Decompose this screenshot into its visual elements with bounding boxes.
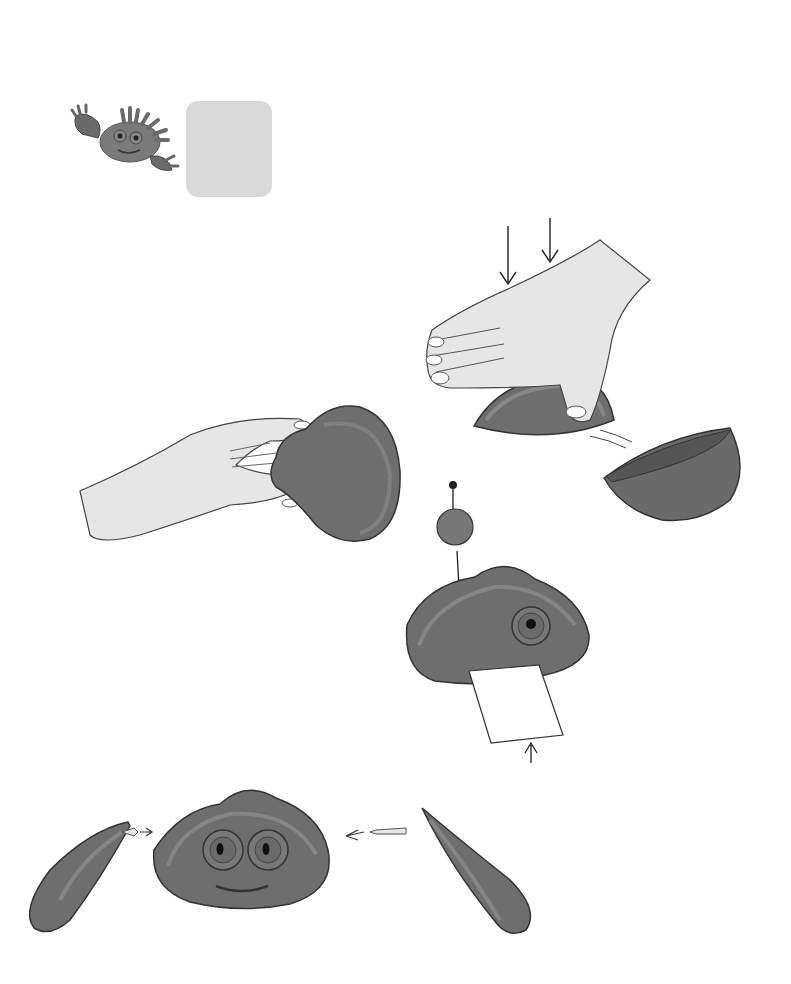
hand-pinching-body-illustration (80, 395, 410, 555)
small-black-ball (449, 481, 457, 489)
clay-crab-icon (68, 100, 183, 180)
legs-attachment-illustration (10, 770, 570, 970)
eye-and-mouth-illustration (395, 475, 625, 785)
title-initial-box (186, 101, 272, 197)
cardboard-mouth (469, 665, 563, 743)
